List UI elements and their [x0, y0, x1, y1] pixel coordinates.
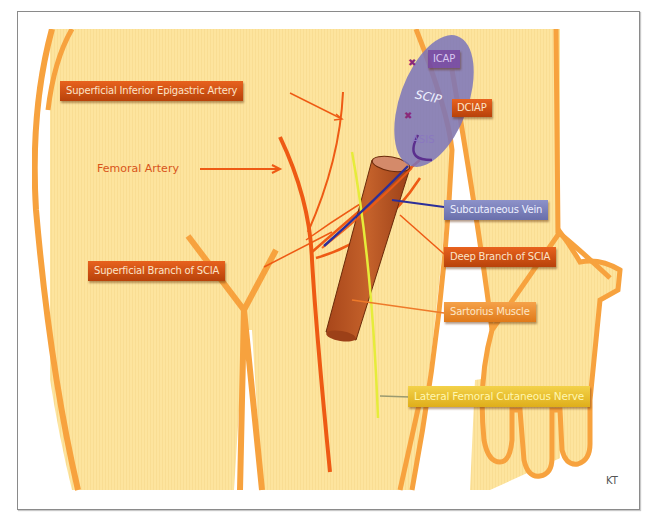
label-dciap: DCIAP: [452, 99, 492, 117]
svg-text:✖: ✖: [408, 57, 416, 68]
label-femoral-artery: Femoral Artery: [97, 162, 179, 175]
svg-text:✖: ✖: [404, 110, 412, 121]
label-deep-branch-scia: Deep Branch of SCIA: [444, 247, 556, 267]
label-superficial-branch-scia: Superficial Branch of SCIA: [88, 261, 225, 281]
author-signature: KT: [606, 475, 618, 486]
label-subcutaneous-vein: Subcutaneous Vein: [444, 200, 548, 220]
label-siea: Superficial Inferior Epigastric Artery: [60, 81, 243, 101]
label-lfcn: Lateral Femoral Cutaneous Nerve: [408, 386, 590, 407]
label-asis: ASIS: [412, 134, 435, 145]
label-sartorius-muscle: Sartorius Muscle: [444, 302, 536, 322]
label-icap: ICAP: [428, 50, 460, 68]
